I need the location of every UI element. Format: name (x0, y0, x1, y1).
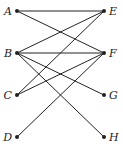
node-E (102, 9, 106, 13)
node-label-E: E (108, 5, 117, 18)
node-C (15, 93, 19, 97)
bipartite-graph: ABCDEFGH (0, 0, 123, 152)
node-A (15, 9, 19, 13)
node-D (15, 135, 19, 139)
node-label-C: C (4, 89, 13, 102)
node-label-B: B (3, 47, 12, 60)
node-H (102, 135, 106, 139)
node-label-G: G (109, 89, 118, 102)
edges (17, 11, 104, 137)
node-label-D: D (2, 131, 12, 144)
node-label-H: H (108, 131, 119, 144)
node-G (102, 93, 106, 97)
node-label-F: F (108, 47, 117, 60)
node-F (102, 51, 106, 55)
node-B (15, 51, 19, 55)
node-label-A: A (3, 5, 12, 18)
